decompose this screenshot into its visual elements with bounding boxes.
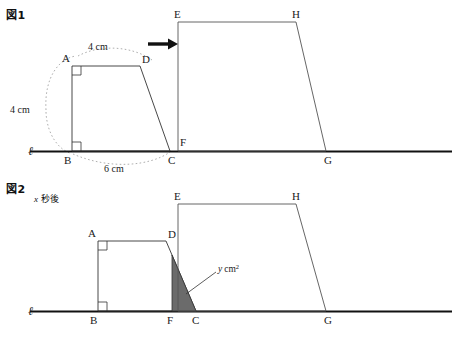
dim-arc-left [46, 56, 76, 110]
vertex-label-e-fig1: E [174, 8, 181, 20]
vertex-label-e-fig2: E [174, 190, 181, 202]
overlap-area-label: ycm2 [217, 263, 239, 274]
vertex-label-a-fig1: A [62, 52, 70, 64]
line-label-fig1: ℓ [28, 144, 33, 158]
motion-arrow-icon [148, 39, 178, 50]
area-leader-line [186, 272, 216, 294]
vertex-label-f-fig1: F [180, 136, 186, 148]
trapezoid-efgh-figure-1 [178, 22, 326, 151]
figures-svg: A D B C E H F G 4 cm 4 cm 6 cm ℓ [0, 0, 458, 338]
line-label-fig2: ℓ [28, 304, 33, 318]
area-exponent: 2 [236, 263, 239, 270]
area-variable: y [217, 264, 223, 274]
vertex-label-d-fig2: D [168, 228, 176, 240]
vertex-label-b-fig2: B [90, 314, 97, 326]
dimension-label-top-fig1: 4 cm [88, 41, 108, 52]
vertex-label-a-fig2: A [88, 227, 96, 239]
dim-arc-left-lower [46, 112, 70, 153]
vertex-label-h-fig1: H [292, 8, 300, 20]
trapezoid-abcd-figure-1 [72, 66, 170, 151]
vertex-label-f-fig2: F [167, 314, 173, 326]
figure-2-group: A D B F C E H G ycm2 ℓ [28, 190, 452, 326]
dimension-label-bottom-fig1: 6 cm [104, 163, 124, 174]
vertex-label-b-fig1: B [64, 154, 71, 166]
vertex-label-c-fig1: C [168, 154, 175, 166]
right-angle-mark-a-fig2 [98, 241, 107, 250]
vertex-label-g-fig1: G [324, 154, 332, 166]
vertex-label-c-fig2: C [192, 314, 199, 326]
right-angle-mark-b [72, 142, 81, 151]
vertex-label-g-fig2: G [324, 314, 332, 326]
right-angle-mark-a [72, 66, 81, 75]
overlap-region-shaded [172, 255, 196, 311]
right-angle-mark-b-fig2 [98, 302, 107, 311]
vertex-label-h-fig2: H [292, 190, 300, 202]
geometry-worksheet: 図1 図2 x 秒後 A [0, 0, 458, 338]
figure-1-group: A D B C E H F G 4 cm 4 cm 6 cm ℓ [10, 8, 452, 174]
trapezoid-efgh-figure-2 [178, 204, 326, 311]
vertex-label-d-fig1: D [142, 53, 150, 65]
dimension-label-left-fig1: 4 cm [10, 104, 30, 115]
